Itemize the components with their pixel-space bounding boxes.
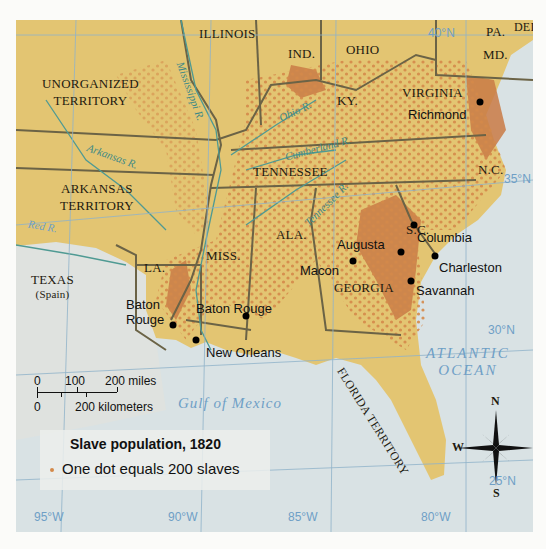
scale-miles-100: 100 — [65, 374, 85, 388]
texas-name: TEXAS — [31, 272, 74, 288]
atlantic-line2: OCEAN — [426, 362, 510, 379]
scale-km-200: 200 kilometers — [75, 400, 153, 414]
legend-title: Slave population, 1820 — [70, 436, 221, 452]
scale-tick — [117, 387, 118, 392]
compass-s: S — [493, 486, 500, 501]
city-label-savannah: Savannah — [416, 283, 475, 298]
longitude-label-95w: 95°W — [34, 510, 63, 524]
dot-marker-icon — [50, 468, 54, 472]
scale-miles-200: 200 miles — [105, 374, 156, 388]
state-label-georgia: GEORGIA — [334, 280, 394, 296]
scale-tick — [77, 387, 78, 392]
city-label-charleston: Charleston — [439, 260, 502, 275]
latitude-label-35n: 35°N — [504, 172, 531, 186]
state-label-nc: N.C. — [478, 162, 503, 178]
scale-tick — [61, 392, 62, 397]
state-label-ohio: OHIO — [346, 42, 379, 58]
legend-description: One dot equals 200 slaves — [62, 460, 240, 477]
state-label-miss: MISS. — [206, 248, 241, 264]
state-label-virginia: VIRGINIA — [402, 85, 463, 101]
water-label-atlantic-ocean: ATLANTIC OCEAN — [426, 345, 510, 379]
scale-miles-0: 0 — [34, 374, 41, 388]
compass-n: N — [491, 394, 500, 409]
state-label-ala: ALA. — [276, 227, 307, 243]
latitude-label-30n: 30°N — [488, 323, 515, 337]
baton-line1: Baton — [126, 297, 164, 312]
scale-km-0: 0 — [34, 400, 41, 414]
city-label-columbia: Columbia — [417, 230, 472, 245]
texas-note: (Spain) — [31, 288, 74, 300]
scale-tick — [37, 387, 38, 398]
state-label-ky: KY. — [337, 93, 358, 109]
city-label-macon: Macon — [300, 263, 339, 278]
state-label-texas: TEXAS (Spain) — [31, 272, 74, 300]
state-label-la: LA. — [144, 260, 165, 276]
state-label-indiana: IND. — [288, 46, 315, 62]
scale-tick — [86, 392, 87, 397]
city-label-new-orleans: New Orleans — [206, 345, 281, 360]
unorganized-line2: TERRITORY — [42, 92, 139, 109]
city-label-mobile: Baton Rouge — [196, 301, 272, 316]
longitude-label-90w: 90°W — [168, 510, 197, 524]
state-label-unorganized-territory: UNORGANIZED TERRITORY — [42, 75, 139, 109]
city-label-augusta: Augusta — [337, 237, 385, 252]
baton-line2: Rouge — [126, 312, 164, 327]
scale-line — [37, 392, 117, 393]
latitude-label-40n: 40°N — [428, 26, 455, 40]
state-label-md: MD. — [483, 47, 508, 63]
arkansas-line2: TERRITORY — [60, 197, 134, 214]
state-label-illinois: ILLINOIS — [199, 26, 255, 42]
map-legend: Slave population, 1820 One dot equals 20… — [40, 430, 270, 490]
water-label-gulf-of-mexico: Gulf of Mexico — [178, 395, 282, 412]
unorganized-line1: UNORGANIZED — [42, 75, 139, 92]
atlantic-line1: ATLANTIC — [426, 345, 510, 362]
longitude-label-85w: 85°W — [288, 510, 317, 524]
state-label-del: DEL. — [514, 20, 533, 35]
arkansas-line1: ARKANSAS — [60, 180, 134, 197]
state-label-pa: PA. — [486, 24, 505, 40]
compass-w: W — [452, 440, 464, 455]
longitude-label-80w: 80°W — [421, 510, 450, 524]
city-label-richmond: Richmond — [408, 107, 467, 122]
state-label-arkansas-territory: ARKANSAS TERRITORY — [60, 180, 134, 214]
state-label-tennessee: TENNESSEE — [253, 164, 328, 180]
city-label-baton-rouge: Baton Rouge — [126, 297, 164, 327]
